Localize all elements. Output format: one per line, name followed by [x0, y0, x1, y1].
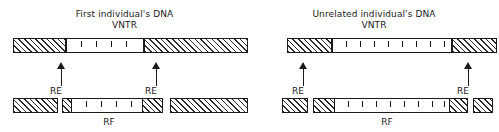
repeat-tick: [432, 101, 433, 107]
repeat-tick: [444, 101, 445, 107]
repeat-tick: [86, 101, 87, 107]
panel-title-sub: VNTR: [0, 20, 249, 31]
repeat-tick: [101, 101, 102, 107]
repeat-tick: [388, 41, 389, 47]
rf-label: RF: [375, 117, 399, 127]
repeat-tick: [404, 101, 405, 107]
repeat-tick: [81, 41, 82, 47]
repeat-tick: [416, 41, 417, 47]
restriction-fragment: [170, 98, 248, 113]
restriction-fragment: [13, 98, 58, 113]
vntr-repeat-region: [332, 38, 452, 53]
restriction-fragments-row: [249, 98, 499, 114]
re-label: RE: [292, 86, 304, 96]
repeat-tick: [346, 41, 347, 47]
restriction-fragment-vntr: [71, 98, 143, 113]
restriction-enzyme-arrow-icon: [152, 62, 161, 86]
restriction-fragment: [142, 98, 163, 113]
re-label: RE: [50, 86, 62, 96]
re-label: RE: [145, 86, 157, 96]
repeat-tick: [126, 41, 127, 47]
rf-label: RF: [97, 117, 121, 127]
re-label: RE: [457, 86, 469, 96]
restriction-fragment: [282, 98, 308, 113]
dna-flank-segment: [452, 38, 497, 53]
repeat-tick: [444, 41, 445, 47]
panel-title-sub: VNTR: [249, 20, 499, 31]
repeat-tick: [111, 41, 112, 47]
repeat-tick: [362, 101, 363, 107]
top-dna-strand: [249, 38, 499, 54]
restriction-enzyme-arrow-icon: [299, 62, 308, 86]
repeat-tick: [96, 41, 97, 47]
repeat-tick: [131, 101, 132, 107]
repeat-tick: [376, 101, 377, 107]
restriction-enzyme-arrow-icon: [464, 62, 473, 86]
dna-flank-segment: [13, 38, 66, 53]
dna-flank-segment: [144, 38, 248, 53]
restriction-fragment: [473, 98, 493, 113]
panel-title-main: First individual's DNA: [0, 9, 249, 20]
panel-first-individual: First individual's DNA VNTR RE RE: [0, 0, 249, 132]
vntr-repeat-region: [66, 38, 144, 53]
repeat-tick: [116, 101, 117, 107]
repeat-tick: [390, 101, 391, 107]
panel-title-main: Unrelated individual's DNA: [249, 9, 499, 20]
restriction-fragment-vntr: [334, 98, 450, 113]
dna-flank-segment: [287, 38, 332, 53]
repeat-tick: [360, 41, 361, 47]
restriction-fragments-row: [0, 98, 249, 114]
repeat-tick: [418, 101, 419, 107]
restriction-enzyme-arrow-icon: [57, 62, 66, 86]
repeat-tick: [374, 41, 375, 47]
vntr-rflp-diagram: First individual's DNA VNTR RE RE: [0, 0, 499, 132]
restriction-fragment: [313, 98, 335, 113]
repeat-tick: [430, 41, 431, 47]
repeat-tick: [348, 101, 349, 107]
top-dna-strand: [0, 38, 249, 54]
panel-unrelated-individual: Unrelated individual's DNA VNTR RE: [249, 0, 499, 132]
repeat-tick: [402, 41, 403, 47]
restriction-fragment: [449, 98, 468, 113]
